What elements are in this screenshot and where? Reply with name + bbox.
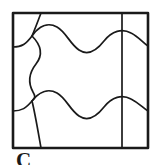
- left-s-curve: [30, 36, 40, 101]
- figure-caption: C: [16, 150, 31, 165]
- tessellation-tile-diagram: [0, 0, 154, 154]
- top-wave-curve: [13, 25, 148, 53]
- top-left-corner-curve: [32, 13, 41, 36]
- bottom-left-corner-curve: [32, 101, 41, 148]
- caption-area: C: [0, 150, 154, 165]
- figure-container: C: [0, 0, 154, 165]
